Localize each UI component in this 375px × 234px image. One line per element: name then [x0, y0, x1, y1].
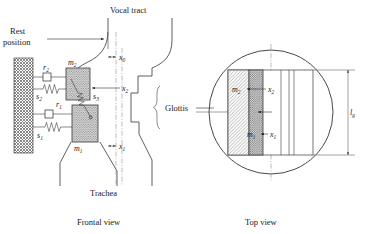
s3-label: s3: [93, 92, 99, 102]
top-view-m1-band: [249, 70, 263, 155]
m2-label: m2: [68, 58, 77, 68]
vocal-tract-wall-left: [71, 18, 108, 76]
glottis-label: Glottis: [165, 103, 188, 113]
rest-position-label-line2: position: [3, 37, 31, 47]
trachea-label: Trachea: [90, 188, 117, 198]
trachea-wall-left: [60, 142, 71, 186]
r2-label: r2: [43, 63, 49, 73]
s2-label: s2: [36, 92, 42, 102]
x2-label: x2: [121, 84, 129, 94]
rest-position-label-line1: Rest: [10, 26, 26, 36]
s1-label: s1: [37, 131, 43, 141]
frontal-view-caption: Frontal view: [77, 217, 121, 227]
m1-label: m1: [74, 144, 83, 154]
vocal-tract-wall-right: [152, 18, 172, 76]
mass-m1-block: [72, 105, 98, 142]
spring-s1-coil: [45, 123, 61, 132]
lg-label: lg: [350, 108, 355, 118]
top-view-m2-band: [228, 70, 249, 155]
mass-m2-block: [66, 68, 90, 100]
damper-r1-body: [45, 110, 53, 118]
trachea-wall-inner: [100, 142, 117, 186]
vocal-tract-label: Vocal tract: [110, 5, 147, 15]
vocal-fold-wall-right: [131, 76, 152, 186]
damper-r2-body: [43, 73, 51, 81]
r1-label: r1: [56, 100, 62, 110]
rigid-wall: [14, 58, 33, 153]
top-view-caption: Top view: [245, 217, 278, 227]
figure-container: Vocal tract Rest position Glottis Trache…: [0, 0, 375, 234]
glottis-brace: [154, 86, 161, 129]
x1-label: x1: [118, 142, 126, 152]
x0-label: x0: [118, 53, 126, 63]
spring-s2-coil: [43, 85, 59, 94]
two-mass-vocal-fold-diagram: Vocal tract Rest position Glottis Trache…: [0, 0, 375, 234]
